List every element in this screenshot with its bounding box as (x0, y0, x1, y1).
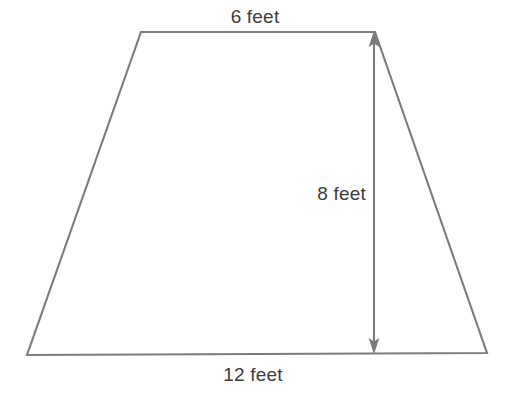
height-length-text: 8 feet (317, 183, 366, 204)
top-side-length-label: 6 feet (0, 6, 508, 28)
top-side-length-text: 6 feet (231, 6, 280, 28)
figure-canvas (0, 0, 508, 397)
bottom-side-length-label: 12 feet (0, 364, 508, 386)
trapezoid-diagram: 6 feet 8 feet 12 feet (0, 0, 508, 397)
height-length-label: 8 feet (306, 183, 366, 205)
trapezoid-outline (27, 32, 487, 355)
bottom-side-length-text: 12 feet (223, 364, 283, 386)
